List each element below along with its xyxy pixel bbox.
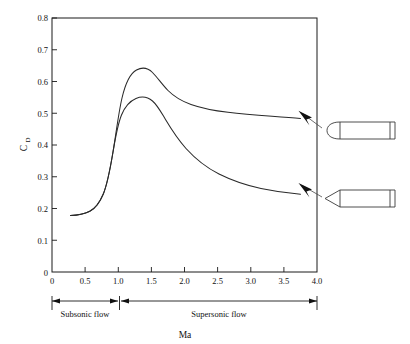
- y-ticklabel-0.2: 0.2: [37, 204, 48, 214]
- y-ticklabel-0.5: 0.5: [37, 109, 48, 119]
- curve-blunt-nose: [71, 68, 301, 215]
- x-ticklabel-4.0: 4.0: [312, 276, 323, 286]
- plot-frame: [52, 18, 317, 272]
- flow-region-brackets: [52, 296, 317, 310]
- x-axis-ticks: [85, 267, 284, 272]
- supersonic-flow-label: Supersonic flow: [191, 309, 247, 319]
- y-axis-title-subscript: D: [24, 137, 32, 142]
- y-axis-title: C D: [19, 137, 32, 151]
- arrow-right-supersonic: [309, 298, 317, 303]
- cone-nose-cylinder-icon: [325, 190, 395, 207]
- y-ticklabel-0.3: 0.3: [37, 172, 48, 182]
- chart-figure: 0 0.1 0.2 0.3 0.4 0.5 0.6 0.7 0.8 C D: [0, 0, 410, 344]
- x-ticklabel-3.5: 3.5: [279, 276, 290, 286]
- y-axis-ticks: [52, 18, 57, 240]
- callout-pointed-nose: [299, 183, 396, 207]
- x-ticklabel-1.5: 1.5: [146, 276, 157, 286]
- y-axis-title-main: C: [19, 145, 29, 151]
- curve-pointed-nose: [71, 97, 301, 215]
- y-ticklabel-0.1: 0.1: [37, 236, 48, 246]
- y-ticklabel-0.7: 0.7: [37, 45, 48, 55]
- y-ticklabel-0.6: 0.6: [37, 77, 48, 87]
- arrow-right-subsonic: [110, 298, 118, 303]
- chart-svg: 0 0.1 0.2 0.3 0.4 0.5 0.6 0.7 0.8 C D: [0, 0, 410, 344]
- y-ticklabel-0: 0: [44, 268, 48, 278]
- y-ticklabel-0.8: 0.8: [37, 13, 48, 23]
- x-ticklabel-2.5: 2.5: [212, 276, 223, 286]
- x-ticklabel-0: 0: [50, 276, 54, 286]
- y-ticklabel-0.4: 0.4: [37, 140, 48, 150]
- round-nose-cylinder-icon: [327, 122, 395, 139]
- x-ticklabel-1.0: 1.0: [113, 276, 124, 286]
- x-ticklabel-3.0: 3.0: [245, 276, 256, 286]
- arrow-left-supersonic: [121, 298, 129, 303]
- arrow-left-subsonic: [52, 298, 60, 303]
- y-axis-tick-labels: 0 0.1 0.2 0.3 0.4 0.5 0.6 0.7 0.8: [37, 13, 48, 277]
- x-ticklabel-2.0: 2.0: [179, 276, 190, 286]
- x-axis-title: Ma: [179, 330, 192, 340]
- x-ticklabel-0.5: 0.5: [80, 276, 91, 286]
- x-axis-tick-labels: 0 0.5 1.0 1.5 2.0 2.5 3.0 3.5 4.0: [50, 276, 322, 286]
- callout-blunt-nose: [299, 111, 396, 139]
- axes-box: [52, 18, 317, 272]
- subsonic-flow-label: Subsonic flow: [61, 309, 111, 319]
